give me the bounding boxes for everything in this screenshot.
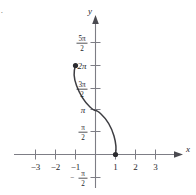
y-axis-label: y <box>87 6 92 16</box>
y-tick-label-pi-2-denominator: 2 <box>81 134 85 142</box>
y-tick-label-neg-pi-2: − π 2 <box>70 170 88 188</box>
curve-endpoint-lower <box>113 152 118 157</box>
y-tick-label-neg-pi-2-numerator: π <box>81 170 85 178</box>
x-tick-label-1: 1 <box>113 162 118 172</box>
x-tick-label--1: −1 <box>71 162 81 172</box>
y-tick-label-neg-pi-2-minus: − <box>70 174 74 182</box>
y-tick-label-5pi-2-numerator: 5π <box>78 35 86 43</box>
x-axis-arrowhead <box>174 151 183 158</box>
x-tick-label-2: 2 <box>133 162 138 172</box>
graph-figure: . y x −3 −2 −1 1 2 3 <box>0 0 196 195</box>
x-tick-label-3: 3 <box>153 162 158 172</box>
x-axis-label: x <box>185 144 190 154</box>
y-tick-label-neg-pi-2-denominator: 2 <box>81 180 85 188</box>
x-tick-label--3: −3 <box>31 162 41 172</box>
y-tick-label-5pi-2-denominator: 2 <box>80 45 84 53</box>
y-tick-label-3pi-2-numerator: 3π <box>78 81 86 89</box>
y-tick-label-pi-2-numerator: π <box>81 124 85 132</box>
y-axis-arrowhead <box>92 15 99 24</box>
corner-marker: . <box>1 8 3 15</box>
y-tick-label-3pi-2-denominator: 2 <box>80 91 84 99</box>
y-tick-label-5pi-2: 5π 2 <box>77 35 88 53</box>
y-tick-label-pi: π <box>81 105 86 115</box>
x-tick-label--2: −2 <box>51 162 61 172</box>
y-tick-label-pi-2: π 2 <box>79 124 88 142</box>
y-tick-label-2pi: 2π <box>77 61 87 71</box>
coordinate-plane-svg: y x −3 −2 −1 1 2 3 5π 2 2π 3π 2 π π 2 <box>0 0 196 195</box>
